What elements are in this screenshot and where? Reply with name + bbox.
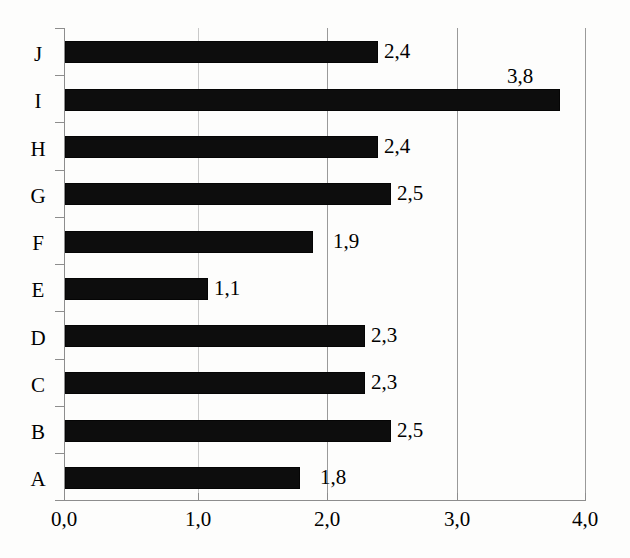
- y-axis-tick: [55, 359, 64, 360]
- y-axis-label-a: A: [18, 469, 58, 490]
- bar-value-i: 3,8: [507, 66, 533, 87]
- x-axis-label-2: 2,0: [292, 508, 362, 530]
- bar-h: [65, 136, 378, 158]
- x-axis-label-0: 0,0: [29, 508, 99, 530]
- bar-value-e: 1,1: [214, 278, 240, 299]
- y-axis-tick: [55, 122, 64, 123]
- y-axis-label-f: F: [18, 233, 58, 254]
- bar-f: [65, 231, 313, 253]
- x-axis-tick: [327, 493, 328, 501]
- y-axis-label-b: B: [18, 422, 58, 443]
- bar-d: [65, 325, 365, 347]
- x-axis-tick: [64, 493, 65, 501]
- x-axis-tick: [585, 493, 586, 501]
- y-axis-tick: [55, 28, 64, 29]
- x-axis-label-4: 4,0: [550, 508, 620, 530]
- y-axis-tick: [55, 264, 64, 265]
- y-axis-label-e: E: [18, 280, 58, 301]
- y-axis-label-c: C: [18, 375, 58, 396]
- bar-value-d: 2,3: [371, 325, 397, 346]
- bar-value-a: 1,8: [320, 467, 346, 488]
- x-axis-tick: [457, 493, 458, 501]
- y-axis-label-d: D: [18, 328, 58, 349]
- x-axis-label-1: 1,0: [163, 508, 233, 530]
- bar-value-f: 1,9: [333, 231, 359, 252]
- y-axis-label-j: J: [18, 44, 58, 65]
- y-axis-tick: [55, 500, 64, 501]
- x-axis-line: [64, 500, 586, 501]
- bar-chart: J I H G F E D C B A 2,4 3,8 2,4 2,5 1,9 …: [0, 0, 630, 558]
- bar-g: [65, 183, 391, 205]
- y-axis-label-i: I: [18, 91, 58, 112]
- bar-j: [65, 41, 378, 63]
- bar-c: [65, 372, 365, 394]
- bar-value-g: 2,5: [397, 183, 423, 204]
- bar-b: [65, 420, 391, 442]
- y-axis-tick: [55, 75, 64, 76]
- bar-e: [65, 278, 208, 300]
- y-axis-tick: [55, 453, 64, 454]
- x-axis-tick: [198, 493, 199, 501]
- bar-i: [65, 89, 560, 111]
- y-axis-label-h: H: [18, 139, 58, 160]
- y-axis-tick: [55, 311, 64, 312]
- bar-value-h: 2,4: [384, 136, 410, 157]
- gridline-x-4: [585, 28, 586, 500]
- bar-a: [65, 467, 300, 489]
- y-axis-tick: [55, 217, 64, 218]
- y-axis-label-g: G: [18, 186, 58, 207]
- bar-value-c: 2,3: [371, 372, 397, 393]
- y-axis-tick: [55, 406, 64, 407]
- x-axis-label-3: 3,0: [422, 508, 492, 530]
- y-axis-tick: [55, 170, 64, 171]
- bar-value-b: 2,5: [397, 420, 423, 441]
- bar-value-j: 2,4: [384, 41, 410, 62]
